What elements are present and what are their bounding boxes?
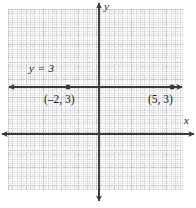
point-marker-left bbox=[66, 85, 71, 90]
point-label-right: (5, 3) bbox=[148, 93, 173, 105]
coordinate-plane-graph: y x y = 3 (–2, 3) (5, 3) bbox=[0, 0, 196, 208]
x-axis-label: x bbox=[184, 114, 189, 126]
line-equation-label: y = 3 bbox=[29, 62, 54, 74]
point-label-left: (–2, 3) bbox=[44, 93, 75, 105]
y-axis-label: y bbox=[104, 0, 109, 12]
point-marker-right bbox=[170, 85, 175, 90]
